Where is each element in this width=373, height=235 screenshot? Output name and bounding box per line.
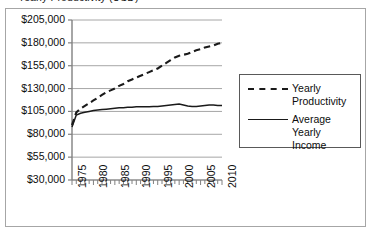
y-axis-tick-label: $180,000: [21, 37, 65, 48]
x-axis-tick-label: 2005: [206, 165, 217, 188]
y-axis-tick-label: $105,000: [21, 105, 65, 116]
y-axis-tick-label: $80,000: [27, 128, 65, 139]
x-axis-tick-label: 1980: [98, 165, 109, 188]
legend-label: Yearly Productivity: [292, 82, 356, 108]
y-axis-tick-label: $130,000: [21, 83, 65, 94]
legend-swatch-dashed-icon: [248, 88, 288, 90]
legend-swatch-solid-icon: [248, 119, 288, 120]
x-axis-tick-label: 1995: [163, 165, 174, 188]
series-line-yearly-productivity: [72, 43, 222, 125]
chart-legend: Yearly Productivity Average Yearly Incom…: [239, 74, 361, 148]
x-axis-tick-label: 2010: [227, 165, 238, 188]
y-axis-tick-label: $55,000: [27, 151, 65, 162]
y-axis-tick-label: $205,000: [21, 14, 65, 25]
legend-item-average-yearly-income: Average Yearly Income: [248, 113, 356, 152]
chart-figure: Yearly Productivity (USD) $205,000$180,0…: [0, 0, 373, 235]
legend-item-yearly-productivity: Yearly Productivity: [248, 82, 356, 108]
y-axis-tick-label: $155,000: [21, 60, 65, 71]
series-line-average-yearly-income: [72, 104, 222, 127]
x-axis-tick-label: 1975: [77, 165, 88, 188]
y-axis-tick-label: $30,000: [27, 174, 65, 185]
legend-label: Average Yearly Income: [292, 113, 356, 152]
x-axis-tick-label: 1990: [141, 165, 152, 188]
x-axis-tick-label: 1985: [120, 165, 131, 188]
x-axis-tick-label: 2000: [184, 165, 195, 188]
